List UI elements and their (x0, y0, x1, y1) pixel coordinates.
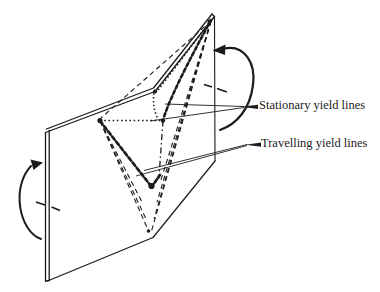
axis-tick-left (36, 202, 60, 211)
bold-hinge-lines (97, 19, 211, 232)
stationary-yield-lines-label: Stationary yield lines (259, 98, 365, 112)
travelling-yield-lines-label: Travelling yield lines (261, 136, 367, 150)
rotation-arrow-right-icon (204, 45, 253, 131)
rotation-arrow-left-icon (20, 160, 60, 240)
plate-outline (46, 14, 216, 281)
leader-lines-travelling (136, 143, 261, 177)
stationary-yield-lines (100, 23, 209, 177)
figure-canvas: Stationary yield lines Travelling yield … (0, 0, 380, 292)
axis-tick-right (204, 85, 227, 93)
